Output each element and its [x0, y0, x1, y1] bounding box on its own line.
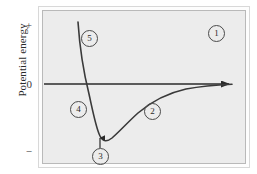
callout-2: 2	[144, 103, 161, 120]
y-tick-minus: −	[14, 146, 32, 157]
figure-root: + 0 − Potential energy r 1 2 3 4 5	[0, 0, 257, 174]
callout-4: 4	[70, 101, 87, 118]
callout-1: 1	[208, 25, 225, 42]
plot-area: r 1 2 3 4 5	[44, 12, 244, 162]
potential-energy-curve	[78, 22, 232, 141]
callout-5: 5	[81, 30, 98, 47]
y-axis-label: Potential energy	[16, 5, 28, 115]
callout-3: 3	[92, 148, 109, 165]
